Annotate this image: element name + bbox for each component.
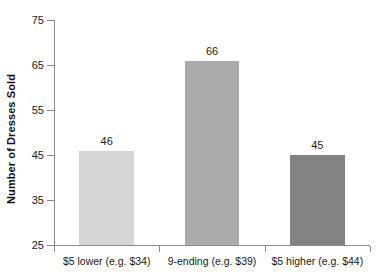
y-axis-tick-label: 75 — [4, 15, 44, 26]
y-axis-tick — [47, 155, 54, 156]
bar-value-label: 66 — [206, 46, 218, 57]
x-axis-category-label: $5 higher (e.g. $44) — [272, 256, 364, 267]
bar[interactable] — [79, 151, 134, 246]
bar-chart: Number of Dresses Sold 253545556575 4666… — [0, 0, 377, 278]
y-axis-tick — [47, 200, 54, 201]
x-axis-category-label: $5 lower (e.g. $34) — [63, 256, 151, 267]
x-axis-tick — [265, 246, 266, 252]
y-axis-tick-label: 25 — [4, 240, 44, 251]
y-axis-tick — [47, 110, 54, 111]
y-axis-tick-label: 55 — [4, 105, 44, 116]
bar[interactable] — [185, 61, 240, 246]
bar-value-label: 46 — [101, 136, 113, 147]
bar-value-label: 45 — [311, 140, 323, 151]
x-axis-line — [54, 245, 370, 246]
x-axis-category-label: 9-ending (e.g. $39) — [168, 256, 257, 267]
y-axis-tick-label: 45 — [4, 150, 44, 161]
y-axis-tick — [47, 245, 54, 246]
bar[interactable] — [290, 155, 345, 245]
x-axis-tick — [159, 246, 160, 252]
x-axis-tick — [370, 246, 371, 252]
x-axis-tick — [54, 246, 55, 252]
y-axis-tick — [47, 20, 54, 21]
y-axis-tick — [47, 65, 54, 66]
y-axis-tick-label: 35 — [4, 195, 44, 206]
y-axis-tick-label: 65 — [4, 60, 44, 71]
y-axis-title: Number of Dresses Sold — [0, 0, 22, 278]
